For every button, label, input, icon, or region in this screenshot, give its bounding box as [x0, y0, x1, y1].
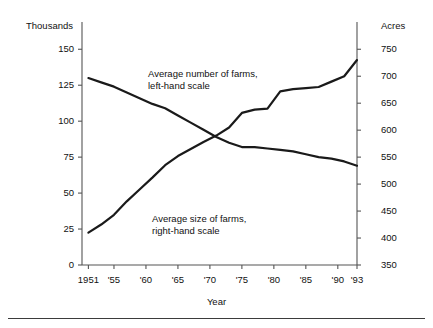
x-axis-title: Year	[0, 296, 433, 307]
annotation-number-of-farms: Average number of farms, left-hand scale	[148, 68, 258, 92]
right-tick-500: 500	[381, 178, 431, 189]
left-tick-100: 100	[18, 115, 74, 126]
right-tick-550: 550	[381, 151, 431, 162]
right-tick-450: 450	[381, 205, 431, 216]
left-tick-75: 75	[18, 151, 74, 162]
right-tick-350: 350	[381, 259, 431, 270]
right-tick-650: 650	[381, 97, 431, 108]
left-tick-125: 125	[18, 79, 74, 90]
left-tick-150: 150	[18, 43, 74, 54]
right-tick-700: 700	[381, 70, 431, 81]
right-tick-600: 600	[381, 124, 431, 135]
annotation-size-line2: right-hand scale	[152, 225, 246, 237]
annotation-size-of-farms: Average size of farms, right-hand scale	[152, 213, 246, 237]
annotation-size-line1: Average size of farms,	[152, 213, 246, 225]
left-tick-50: 50	[18, 187, 74, 198]
annotation-farms-line1: Average number of farms,	[148, 68, 258, 80]
right-tick-400: 400	[381, 232, 431, 243]
annotation-farms-line2: left-hand scale	[148, 80, 258, 92]
farms-chart-figure: Thousands Acres 0255075100125150 3504004…	[0, 0, 433, 328]
left-tick-25: 25	[18, 223, 74, 234]
right-tick-750: 750	[381, 43, 431, 54]
bottom-divider-rule	[8, 318, 425, 319]
left-tick-0: 0	[18, 259, 74, 270]
x-tick-93: '93	[335, 274, 379, 285]
